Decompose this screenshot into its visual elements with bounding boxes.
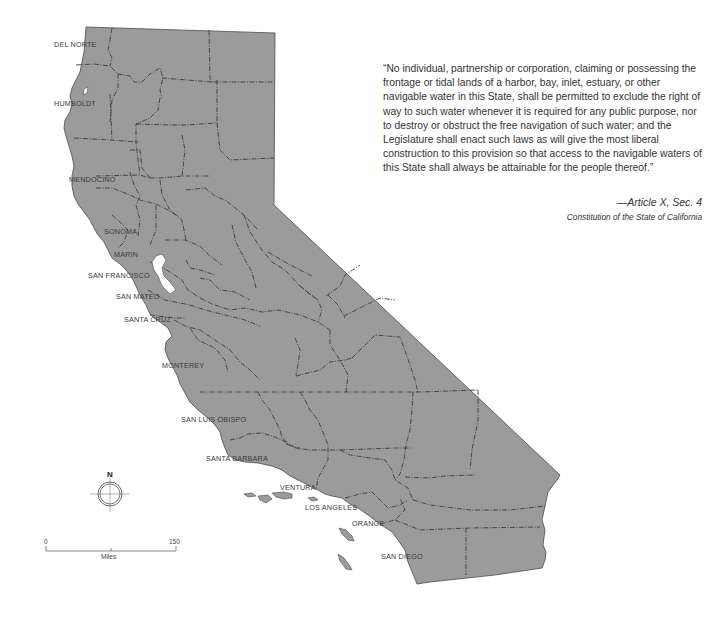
label-orange: ORANGE: [352, 519, 384, 528]
constitution-quote: “No individual, partnership or corporati…: [383, 62, 703, 176]
compass-rose: [90, 476, 130, 512]
quote-citation: —Article X, Sec. 4: [617, 196, 702, 208]
scale-unit-label: Miles: [101, 553, 116, 560]
label-ventura: VENTURA: [280, 483, 316, 492]
label-monterey: MONTEREY: [162, 361, 204, 370]
label-mendocino: MENDOCINO: [69, 175, 116, 184]
label-santa-cruz: SANTA CRUZ: [124, 315, 171, 324]
scale-min-label: 0: [44, 538, 48, 545]
label-del-norte: DEL NORTE: [54, 40, 97, 49]
label-san-francisco: SAN FRANCISCO: [88, 271, 150, 280]
label-san-diego: SAN DIEGO: [381, 552, 423, 561]
label-humboldt: HUMBOLDT: [54, 99, 96, 108]
label-sonoma: SONOMA: [104, 227, 137, 236]
label-san-mateo: SAN MATEO: [116, 292, 160, 301]
label-santa-barbara: SANTA BARBARA: [206, 454, 268, 463]
label-san-luis-obispo: SAN LUIS OBISPO: [181, 415, 246, 424]
scale-max-label: 150: [169, 538, 180, 545]
label-marin: MARIN: [114, 250, 138, 259]
quote-source: Constitution of the State of California: [567, 212, 702, 222]
scale-bar: [46, 546, 176, 551]
label-los-angeles: LOS ANGELES: [305, 503, 357, 512]
compass-north-label: N: [107, 470, 113, 479]
